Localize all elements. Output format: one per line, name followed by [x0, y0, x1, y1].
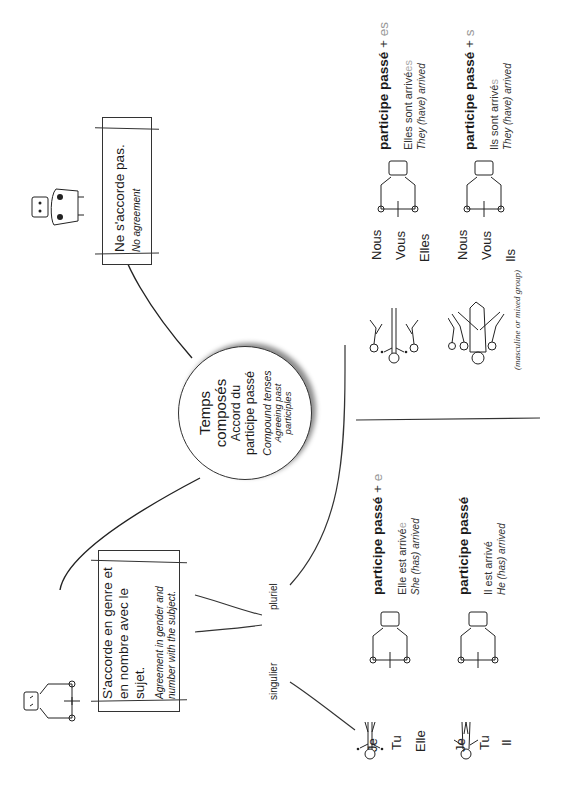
hub-title-2: composés — [213, 379, 229, 447]
hub-subtitle-1: Accord du — [229, 385, 243, 441]
pronoun-elle: Elle — [414, 730, 427, 752]
pronoun-tu-masc: Tu — [478, 735, 491, 750]
seated-figure-icon — [22, 670, 84, 730]
seated-figure-with-bag-icon — [30, 175, 85, 235]
mixed-group-note: (masculine or mixed group) — [512, 270, 522, 370]
pronoun-tu-fem: Tu — [390, 735, 403, 750]
seated-figure-icon-fem-singular — [360, 615, 420, 665]
branch-label-plural: pluriel — [268, 583, 279, 610]
hub-english-3: participles — [283, 392, 293, 435]
rule-plural-feminine: participe passé + es — [376, 22, 391, 150]
rule-plural-masculine: participe passé + s — [462, 30, 477, 150]
no-agreement-english: No agreement — [131, 130, 143, 252]
mixed-group-icon — [448, 296, 510, 368]
agreement-box: S'accorde en genre et en nombre avec le … — [98, 550, 180, 712]
example-plural-feminine: Elles sont arrivées — [402, 60, 414, 150]
pronoun-il: Il — [500, 740, 513, 747]
branch-label-singular: singulier — [268, 663, 279, 700]
rule-singular-feminine: participe passé + e — [370, 474, 385, 595]
hub-subtitle-2: participe passé — [243, 371, 257, 455]
example-singular-masculine: Il est arrivé — [482, 541, 494, 595]
seated-figure-icon-masc-plural — [454, 164, 514, 214]
example-plural-masculine: Ils sont arrivés — [488, 79, 500, 150]
pronoun-je-masc: Je — [454, 738, 467, 752]
mind-map: Temps composés Accord du participe passé… — [0, 0, 564, 790]
no-agreement-french: Ne s'accorde pas. — [112, 130, 128, 252]
translation-singular-masculine: He (has) arrived — [496, 523, 507, 595]
pronoun-nous-fem: Nous — [370, 230, 383, 260]
seated-figure-icon-masc-singular — [448, 615, 508, 665]
agreement-english-2: number with the subject. — [166, 563, 178, 699]
pronoun-vous-fem: Vous — [394, 231, 407, 260]
example-singular-feminine: Elle est arrivée — [396, 522, 408, 595]
seated-figure-icon-fem-plural — [368, 164, 428, 214]
agreement-english-1: Agreement in gender and — [154, 563, 166, 699]
translation-plural-masculine: They (have) arrived — [502, 63, 513, 150]
rule-singular-masculine: participe passé — [456, 497, 471, 595]
hub-title-1: Temps — [197, 391, 213, 435]
agreement-french-2: en nombre avec le sujet. — [116, 563, 148, 699]
pronoun-vous-masc: Vous — [480, 231, 493, 260]
pronoun-je-fem: Je — [366, 738, 379, 752]
no-agreement-box: Ne s'accorde pas. No agreement — [102, 117, 152, 265]
hub-circle: Temps composés Accord du participe passé… — [178, 346, 312, 480]
pronoun-elles: Elles — [418, 234, 431, 262]
pronoun-nous-masc: Nous — [456, 230, 469, 260]
agreement-french-1: S'accorde en genre et — [100, 563, 116, 699]
translation-singular-feminine: She (has) arrived — [410, 518, 421, 595]
translation-plural-feminine: They (have) arrived — [416, 63, 427, 150]
group-of-women-icon — [368, 298, 420, 368]
pronoun-ils: Ils — [504, 249, 517, 262]
